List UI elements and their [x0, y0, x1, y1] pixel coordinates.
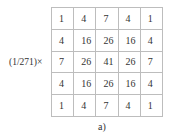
kernel-cell: 4 — [74, 95, 96, 117]
gaussian-kernel-grid: 1 4 7 4 1 4 16 26 16 4 7 26 41 26 7 4 16… — [51, 7, 163, 117]
kernel-cell: 16 — [74, 30, 96, 52]
kernel-cell: 7 — [96, 95, 118, 117]
normalization-factor: (1/271)× — [9, 56, 42, 68]
kernel-cell: 4 — [52, 73, 74, 95]
kernel-cell: 26 — [96, 30, 118, 52]
kernel-cell: 4 — [141, 30, 163, 52]
kernel-cell: 1 — [141, 8, 163, 30]
kernel-cell: 7 — [141, 52, 163, 74]
kernel-cell: 4 — [119, 8, 141, 30]
kernel-cell: 4 — [52, 30, 74, 52]
kernel-cell: 4 — [119, 95, 141, 117]
kernel-cell: 26 — [119, 52, 141, 74]
kernel-cell: 1 — [52, 8, 74, 30]
kernel-cell: 1 — [52, 95, 74, 117]
kernel-cell: 16 — [119, 30, 141, 52]
kernel-cell: 16 — [74, 73, 96, 95]
kernel-cell: 7 — [96, 8, 118, 30]
kernel-cell: 26 — [74, 52, 96, 74]
kernel-cell: 41 — [96, 52, 118, 74]
kernel-cell: 4 — [74, 8, 96, 30]
kernel-cell: 4 — [141, 73, 163, 95]
kernel-cell: 1 — [141, 95, 163, 117]
kernel-cell: 16 — [119, 73, 141, 95]
kernel-cell: 7 — [52, 52, 74, 74]
figure-caption: a) — [98, 121, 106, 132]
kernel-cell: 26 — [96, 73, 118, 95]
